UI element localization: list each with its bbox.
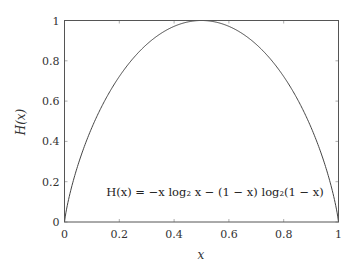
x-tick-label: 0.4 (165, 228, 183, 241)
y-axis-label: H(x) (14, 108, 28, 136)
y-tick-label: 0.4 (42, 135, 60, 148)
x-tick-label: 0 (61, 228, 68, 241)
y-tick-label: 0.6 (42, 95, 60, 108)
y-tick-label: 0.8 (42, 55, 60, 68)
tick-labels: 00.20.40.60.8100.20.40.60.81 (42, 15, 342, 242)
entropy-chart: 00.20.40.60.8100.20.40.60.81 x H(x) H(x)… (0, 0, 352, 266)
y-tick-label: 1 (53, 15, 60, 28)
x-tick-label: 0.8 (275, 228, 293, 241)
x-tick-label: 0.6 (220, 228, 238, 241)
x-tick-label: 0.2 (111, 228, 129, 241)
x-axis-label: x (198, 248, 205, 262)
formula-annotation: H(x) = −x log₂ x − (1 − x) log₂(1 − x) (106, 185, 324, 199)
y-tick-label: 0.2 (42, 176, 60, 189)
y-tick-label: 0 (53, 216, 60, 229)
x-tick-label: 1 (335, 228, 342, 241)
